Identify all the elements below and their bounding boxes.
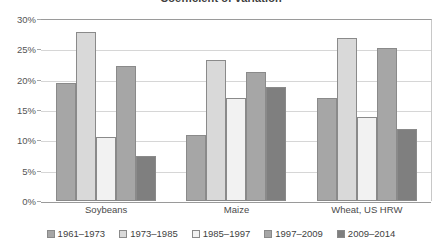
legend-swatch-icon [119, 230, 127, 238]
bar [186, 135, 206, 201]
bars-layer [41, 19, 432, 201]
bar [337, 38, 357, 201]
bar-group [171, 19, 301, 201]
legend-label: 1985–1997 [203, 228, 251, 239]
bar [357, 117, 377, 201]
bar [397, 129, 417, 201]
legend-item[interactable]: 1961–1973 [47, 228, 106, 239]
legend-swatch-icon [192, 230, 200, 238]
bar [116, 66, 136, 201]
y-tick-label: 5% [22, 165, 36, 176]
chart-title: Coefficient of variation [0, 0, 442, 4]
legend-label: 1997–2009 [275, 228, 323, 239]
bar [226, 98, 246, 201]
y-axis: 30%25%20%15%10%5%0% [0, 19, 36, 201]
bar [56, 83, 76, 201]
y-tick-label: 15% [17, 105, 36, 116]
legend-label: 1961–1973 [58, 228, 106, 239]
bar [377, 48, 397, 201]
bar [136, 156, 156, 202]
bar [317, 98, 337, 201]
category-label: Wheat, US HRW [331, 204, 402, 215]
y-tick-label: 10% [17, 135, 36, 146]
y-tick-label: 0% [22, 196, 36, 207]
y-tick-label: 25% [17, 44, 36, 55]
bar [246, 72, 266, 201]
chart-legend: 1961–19731973–19851985–19971997–20092009… [0, 228, 442, 239]
legend-label: 1973–1985 [130, 228, 178, 239]
bar-group [302, 19, 432, 201]
bar [206, 60, 226, 201]
y-tick-label: 20% [17, 74, 36, 85]
category-label: Soybeans [85, 204, 127, 215]
legend-item[interactable]: 1973–1985 [119, 228, 178, 239]
bar [96, 137, 116, 201]
legend-label: 2009–2014 [348, 228, 396, 239]
legend-item[interactable]: 1997–2009 [264, 228, 323, 239]
bar [266, 87, 286, 201]
chart-container: Coefficient of variation 30%25%20%15%10%… [0, 0, 442, 246]
legend-swatch-icon [47, 230, 55, 238]
bar [76, 32, 96, 201]
legend-item[interactable]: 1985–1997 [192, 228, 251, 239]
legend-item[interactable]: 2009–2014 [337, 228, 396, 239]
y-tick-label: 30% [17, 14, 36, 25]
legend-swatch-icon [264, 230, 272, 238]
gridline-0 [41, 202, 431, 203]
legend-swatch-icon [337, 230, 345, 238]
bar-group [41, 19, 171, 201]
x-axis-category-labels: SoybeansMaizeWheat, US HRW [41, 204, 432, 220]
category-label: Maize [224, 204, 249, 215]
